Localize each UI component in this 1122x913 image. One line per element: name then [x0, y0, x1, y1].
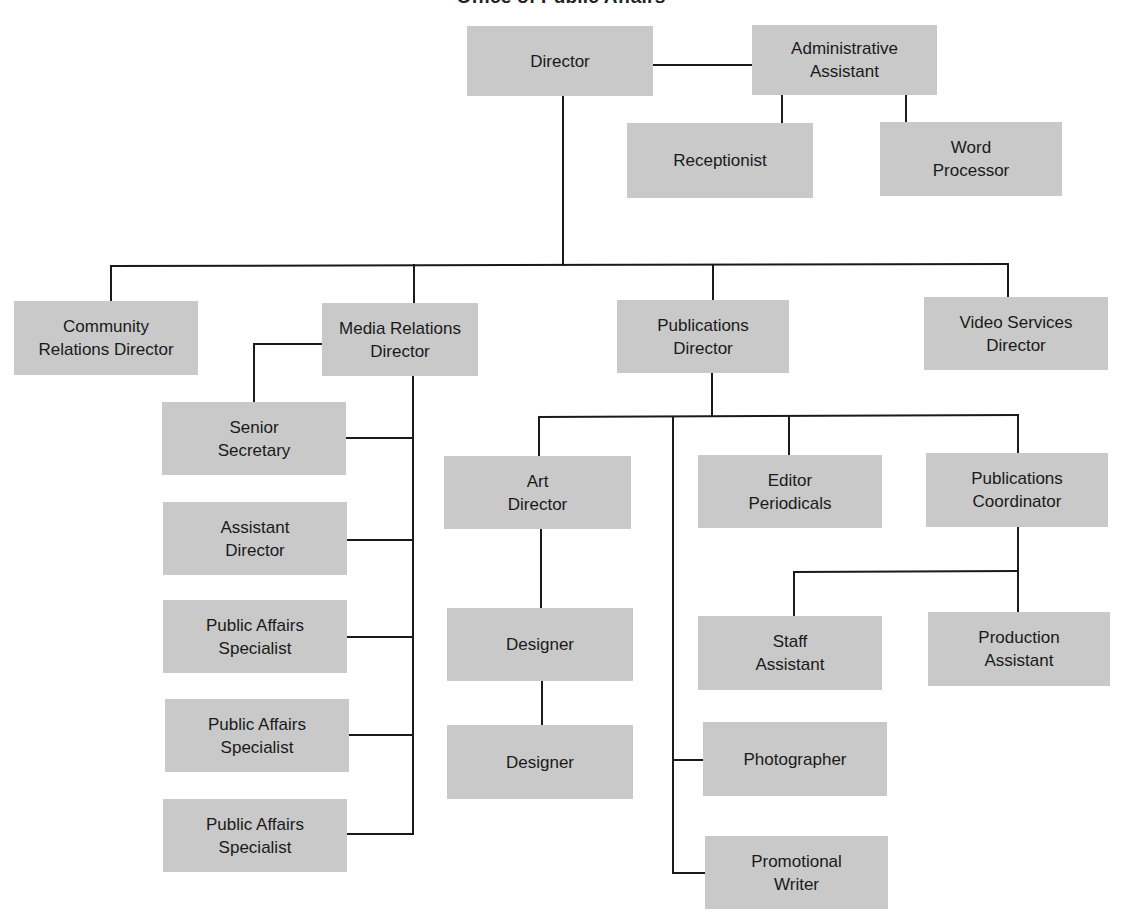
org-node-label: Public AffairsSpecialist — [208, 713, 306, 759]
org-node-label-line: Relations Director — [38, 338, 173, 361]
org-node-label-line: Video Services — [959, 311, 1072, 334]
org-node-label-line: Processor — [933, 159, 1010, 182]
org-node-label-line: Director — [508, 493, 568, 516]
org-node-label: PublicationsDirector — [657, 314, 749, 360]
org-node-label: Public AffairsSpecialist — [206, 813, 304, 859]
org-node-community-relations-director[interactable]: CommunityRelations Director — [14, 301, 198, 375]
org-node-label-line: Assistant — [978, 649, 1059, 672]
org-node-label-line: Editor — [748, 469, 831, 492]
org-node-label-line: Administrative — [791, 37, 898, 60]
org-node-label-line: Publications — [657, 314, 749, 337]
org-node-label-line: Receptionist — [673, 149, 767, 172]
connector-media-relations-director-to-senior-secretary — [254, 344, 322, 402]
org-node-label: Director — [530, 50, 590, 73]
org-node-staff-assistant[interactable]: StaffAssistant — [698, 616, 882, 690]
org-node-label: Designer — [506, 633, 574, 656]
org-node-public-affairs-specialist-2[interactable]: Public AffairsSpecialist — [165, 699, 349, 772]
connector-directors-bus-to-directors-bus — [111, 264, 1008, 266]
org-node-label: Video ServicesDirector — [959, 311, 1072, 357]
chart-title: Office of Public Affairs — [0, 0, 1122, 8]
org-node-label: EditorPeriodicals — [748, 469, 831, 515]
org-node-promotional-writer[interactable]: PromotionalWriter — [705, 836, 888, 909]
org-node-public-affairs-specialist-3[interactable]: Public AffairsSpecialist — [163, 799, 347, 872]
org-node-label-line: Director — [530, 50, 590, 73]
org-node-public-affairs-specialist-1[interactable]: Public AffairsSpecialist — [163, 600, 347, 673]
org-node-label-line: Staff — [756, 630, 825, 653]
org-node-label: SeniorSecretary — [218, 416, 291, 462]
org-node-label-line: Art — [508, 470, 568, 493]
org-node-label: Receptionist — [673, 149, 767, 172]
org-node-label-line: Secretary — [218, 439, 291, 462]
org-node-art-director[interactable]: ArtDirector — [444, 456, 631, 529]
org-node-label-line: Director — [221, 539, 290, 562]
org-node-label: PromotionalWriter — [751, 850, 842, 896]
org-node-photographer[interactable]: Photographer — [703, 722, 887, 796]
org-node-label-line: Director — [959, 334, 1072, 357]
org-node-label: AssistantDirector — [221, 516, 290, 562]
org-node-label-line: Public Affairs — [206, 813, 304, 836]
connector-publications-bus-to-publications-bus — [539, 415, 1018, 417]
org-node-admin-assistant[interactable]: AdministrativeAssistant — [752, 25, 937, 95]
org-node-label-line: Photographer — [743, 748, 846, 771]
org-node-receptionist[interactable]: Receptionist — [627, 123, 813, 198]
org-node-label-line: Media Relations — [339, 317, 461, 340]
org-node-label: WordProcessor — [933, 136, 1010, 182]
org-node-label: Media RelationsDirector — [339, 317, 461, 363]
org-node-label-line: Publications — [971, 467, 1063, 490]
org-node-label: Public AffairsSpecialist — [206, 614, 304, 660]
org-node-word-processor[interactable]: WordProcessor — [880, 122, 1062, 196]
org-node-label-line: Coordinator — [971, 490, 1063, 513]
org-node-editor-periodicals[interactable]: EditorPeriodicals — [698, 455, 882, 528]
org-node-label: Photographer — [743, 748, 846, 771]
org-node-senior-secretary[interactable]: SeniorSecretary — [162, 402, 346, 475]
org-node-director[interactable]: Director — [467, 26, 653, 96]
org-node-production-assistant[interactable]: ProductionAssistant — [928, 612, 1110, 686]
org-node-label-line: Periodicals — [748, 492, 831, 515]
org-node-media-relations-director[interactable]: Media RelationsDirector — [322, 303, 478, 376]
org-node-label-line: Assistant — [756, 653, 825, 676]
org-node-label: PublicationsCoordinator — [971, 467, 1063, 513]
org-node-label-line: Specialist — [206, 836, 304, 859]
org-node-label: Designer — [506, 751, 574, 774]
org-node-publications-coordinator[interactable]: PublicationsCoordinator — [926, 453, 1108, 527]
org-node-assistant-director[interactable]: AssistantDirector — [163, 502, 347, 575]
org-node-label-line: Public Affairs — [206, 614, 304, 637]
org-node-label-line: Specialist — [206, 637, 304, 660]
org-node-label-line: Designer — [506, 633, 574, 656]
org-node-label-line: Assistant — [221, 516, 290, 539]
org-node-label-line: Director — [657, 337, 749, 360]
org-node-label-line: Designer — [506, 751, 574, 774]
org-node-label-line: Assistant — [791, 60, 898, 83]
org-node-label: ProductionAssistant — [978, 626, 1059, 672]
org-node-video-services-director[interactable]: Video ServicesDirector — [924, 297, 1108, 370]
org-node-label-line: Community — [38, 315, 173, 338]
org-node-publications-director[interactable]: PublicationsDirector — [617, 300, 789, 373]
org-node-label-line: Promotional — [751, 850, 842, 873]
connector-publications-coordinator-to-staff-assistant — [794, 571, 1018, 616]
org-node-label-line: Director — [339, 340, 461, 363]
org-node-label-line: Senior — [218, 416, 291, 439]
org-node-designer-1[interactable]: Designer — [447, 608, 633, 681]
org-node-label: StaffAssistant — [756, 630, 825, 676]
org-node-label-line: Specialist — [208, 736, 306, 759]
org-node-label-line: Word — [933, 136, 1010, 159]
org-node-label-line: Public Affairs — [208, 713, 306, 736]
org-node-label: AdministrativeAssistant — [791, 37, 898, 83]
org-node-designer-2[interactable]: Designer — [447, 725, 633, 799]
org-node-label-line: Writer — [751, 873, 842, 896]
org-node-label-line: Production — [978, 626, 1059, 649]
org-node-label: CommunityRelations Director — [38, 315, 173, 361]
org-node-label: ArtDirector — [508, 470, 568, 516]
